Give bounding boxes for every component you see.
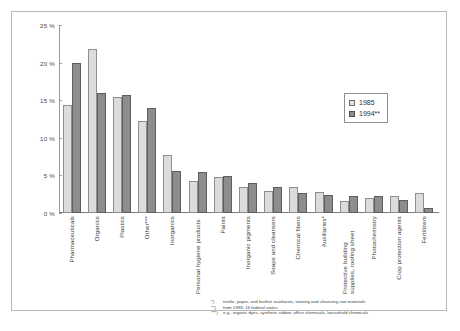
- bar-1985: [239, 187, 248, 213]
- y-tick-mark: [59, 213, 62, 214]
- y-tick-label: 0 %: [44, 210, 55, 217]
- x-axis-tick-label: Fertilizers: [421, 216, 428, 244]
- bar-group: [412, 25, 437, 213]
- bar-group: [160, 25, 185, 213]
- bar-1985: [315, 192, 324, 213]
- x-axis-tick-label: Paints: [220, 216, 227, 234]
- bar-1994: [223, 176, 232, 213]
- x-axis-tick-label: Personal hygiene products: [194, 216, 201, 294]
- bar-group: [84, 25, 109, 213]
- bar-group: [311, 25, 336, 213]
- bar-1994: [122, 95, 131, 213]
- y-tick-label: 5 %: [44, 172, 55, 179]
- x-label-cell: Inorganics: [160, 215, 185, 301]
- bar-1994: [273, 187, 282, 213]
- x-label-cell: Soaps and cleansers: [261, 215, 286, 301]
- x-axis-tick-label: Photochemistry: [371, 216, 378, 259]
- bar-group: [261, 25, 286, 213]
- bar-1985: [63, 105, 72, 213]
- legend-swatch-icon: [349, 111, 355, 117]
- y-tick-label: 10 %: [40, 134, 55, 141]
- bar-group: [286, 25, 311, 213]
- footnote: ***)e.g., organic dyes, synthetic rubber…: [211, 310, 443, 316]
- bar-1994: [298, 193, 307, 213]
- bar-group: [135, 25, 160, 213]
- x-label-cell: Plastics: [109, 215, 134, 301]
- x-label-cell: Other***: [135, 215, 160, 301]
- x-label-cell: Personal hygiene products: [185, 215, 210, 301]
- bar-1985: [138, 121, 147, 213]
- x-label-cell: Auxiliaries*: [311, 215, 336, 301]
- x-axis-tick-label: Pharmaceuticals: [68, 216, 75, 263]
- x-axis-labels: PharmaceuticalsOrganicsPlasticsOther***I…: [59, 215, 437, 301]
- x-axis-tick-label: Soaps and cleansers: [270, 216, 277, 275]
- chart-legend: 19851994**: [344, 93, 388, 123]
- bar-1985: [390, 196, 399, 213]
- x-label-cell: Protective building supplies, roofing sh…: [336, 215, 361, 301]
- x-axis-tick-label: Auxiliaries*: [320, 216, 327, 247]
- bar-1994: [324, 195, 333, 213]
- bar-1985: [340, 201, 349, 213]
- bar-1994: [198, 172, 207, 213]
- bar-1994: [349, 196, 358, 213]
- legend-label: 1994**: [359, 110, 380, 117]
- bar-1994: [399, 200, 408, 213]
- bar-group: [185, 25, 210, 213]
- legend-item: 1985: [349, 97, 380, 108]
- footnotes: *)textile, paper, and leather auxiliarie…: [211, 299, 443, 316]
- bar-group: [109, 25, 134, 213]
- x-axis-tick-label: Inorganic pigments: [245, 216, 252, 269]
- bar-1985: [289, 187, 298, 213]
- x-label-cell: Organics: [84, 215, 109, 301]
- legend-item: 1994**: [349, 108, 380, 119]
- bar-1994: [248, 183, 257, 213]
- bar-group: [59, 25, 84, 213]
- bar-1994: [172, 171, 181, 213]
- bar-1985: [365, 198, 374, 213]
- x-axis-tick-label: Chemical fibers: [295, 216, 302, 260]
- bar-1985: [415, 193, 424, 213]
- x-label-cell: Photochemistry: [361, 215, 386, 301]
- bar-1985: [163, 155, 172, 213]
- x-label-cell: Inorganic pigments: [235, 215, 260, 301]
- bar-1985: [214, 177, 223, 213]
- footnote-marker: ***): [211, 310, 223, 316]
- chart-frame: 0 %5 %10 %15 %20 %25 % PharmaceuticalsOr…: [11, 11, 447, 311]
- x-label-cell: Pharmaceuticals: [59, 215, 84, 301]
- legend-swatch-icon: [349, 100, 355, 106]
- x-axis-tick-label: Crop protection agents: [396, 216, 403, 280]
- y-tick-label: 25 %: [40, 22, 55, 29]
- bar-group: [235, 25, 260, 213]
- bar-1994: [72, 63, 81, 213]
- bar-1985: [264, 191, 273, 213]
- x-label-cell: Paints: [210, 215, 235, 301]
- bar-1985: [113, 97, 122, 213]
- bar-group: [210, 25, 235, 213]
- footnote-text: e.g., organic dyes, synthetic rubber, of…: [223, 310, 368, 316]
- bar-1994: [147, 108, 156, 213]
- x-axis-tick-label: Other***: [144, 216, 151, 239]
- x-axis-tick-label: Organics: [94, 216, 101, 241]
- x-axis-tick-label: Protective building supplies, roofing sh…: [342, 216, 355, 294]
- bar-1994: [374, 196, 383, 213]
- bar-1994: [97, 93, 106, 213]
- bar-1985: [88, 49, 97, 213]
- x-label-cell: Fertilizers: [412, 215, 437, 301]
- x-label-cell: Crop protection agents: [387, 215, 412, 301]
- legend-label: 1985: [359, 99, 375, 106]
- y-tick-label: 15 %: [40, 97, 55, 104]
- x-label-cell: Chemical fibers: [286, 215, 311, 301]
- x-axis-tick-label: Plastics: [119, 216, 126, 238]
- bar-1985: [189, 181, 198, 213]
- bar-group: [387, 25, 412, 213]
- y-tick-label: 20 %: [40, 59, 55, 66]
- bar-1994: [424, 208, 433, 213]
- x-axis-tick-label: Inorganics: [169, 216, 176, 245]
